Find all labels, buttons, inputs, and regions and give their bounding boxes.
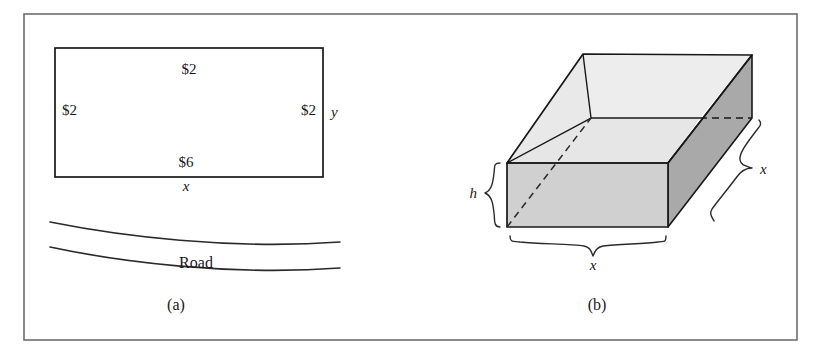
width-brace (510, 236, 666, 256)
road-label: Road (179, 254, 213, 271)
box-height-label: h (470, 185, 478, 201)
lot-label-top: $2 (182, 61, 197, 77)
figure-canvas: $2 $2 $2 $6 x y Road (a) (0, 0, 821, 362)
box-width-label: x (589, 257, 597, 273)
panel-b: h x x (b) (470, 54, 768, 314)
lot-label-bottom: $6 (179, 154, 195, 170)
lot-height-variable: y (329, 104, 338, 120)
lot-width-variable: x (182, 178, 190, 194)
box-depth-label: x (759, 161, 767, 177)
lot-label-left: $2 (62, 102, 77, 118)
lot-label-right: $2 (301, 102, 316, 118)
panel-a-caption: (a) (167, 296, 185, 314)
panel-b-caption: (b) (588, 296, 607, 314)
road-edge-upper (50, 222, 340, 244)
height-brace (485, 163, 500, 227)
figure-root: $2 $2 $2 $6 x y Road (a) (0, 0, 821, 362)
panel-a: $2 $2 $2 $6 x y Road (a) (50, 48, 340, 314)
